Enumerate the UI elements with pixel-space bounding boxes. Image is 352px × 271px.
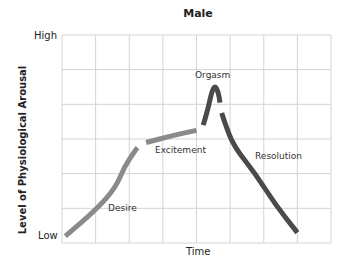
curve-desire [65,148,137,236]
arousal-curve [65,87,297,236]
grid [62,35,331,243]
curve-orgasm [203,87,220,125]
phase-label-desire: Desire [108,203,137,213]
phase-label-excitement: Excitement [155,145,206,155]
curve-resolution [222,113,298,233]
phase-label-orgasm: Orgasm [195,70,230,80]
plot-area [0,0,352,271]
phase-label-resolution: Resolution [255,151,302,161]
curve-excitement [146,130,196,142]
